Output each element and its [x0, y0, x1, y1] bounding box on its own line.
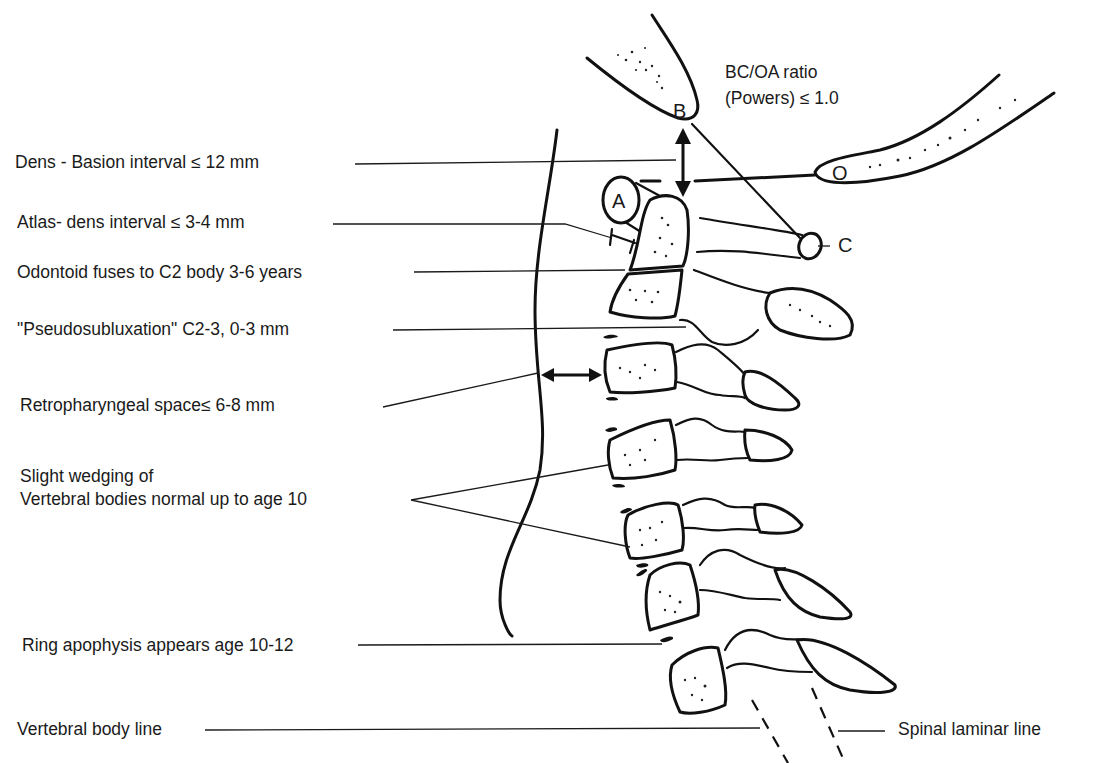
c1-posterior-arch: C — [697, 218, 852, 262]
atlas-letter: A — [612, 190, 626, 212]
odontoid-fuses-leader — [414, 270, 625, 272]
retropharyngeal-leader — [383, 373, 538, 407]
bc-oa-ratio-label-line1: BC/OA ratio — [725, 62, 817, 82]
atlas-dens-label: Atlas- dens interval ≤ 3-4 mm — [17, 212, 244, 232]
wedging-label-line1: Slight wedging of — [20, 466, 153, 486]
vertebral-body-line-leader — [205, 728, 760, 730]
oa-line — [641, 175, 815, 181]
basion-letter: B — [673, 100, 686, 122]
pseudosubluxation-leader — [393, 327, 686, 330]
atlas-dens-leader — [333, 224, 612, 238]
posterior-arch-letter: C — [838, 234, 852, 256]
spinal-laminar-dashed-line — [812, 688, 845, 763]
ring-apophysis-label: Ring apophysis appears age 10-12 — [22, 635, 293, 655]
c3-vertebra — [603, 335, 799, 410]
dens-basion-leader — [355, 160, 676, 164]
dens-basion-arrow — [675, 128, 691, 197]
cervical-spine-diagram: B O BC/OA ratio (Powers) ≤ 1.0 A — [0, 0, 1109, 763]
atlas-anterior-arch: A — [603, 177, 639, 223]
c2-spinous-process — [680, 270, 852, 345]
atlas-dens-interval-marker — [610, 229, 635, 253]
odontoid-fuses-label: Odontoid fuses to C2 body 3-6 years — [17, 262, 302, 282]
c7-vertebra — [670, 630, 895, 713]
c4-vertebra — [605, 419, 792, 488]
spinal-laminar-line-label: Spinal laminar line — [898, 719, 1041, 739]
vertebral-body-line-label: Vertebral body line — [17, 719, 162, 739]
wedging-leaders — [411, 465, 630, 547]
retropharyngeal-label: Retropharyngeal space≤ 6-8 mm — [20, 395, 275, 415]
prevertebral-soft-tissue-line — [500, 130, 557, 636]
pseudosubluxation-label: "Pseudosubluxation" C2-3, 0-3 mm — [17, 319, 289, 339]
c6-vertebra — [636, 550, 851, 642]
bc-oa-ratio-label-line2: (Powers) ≤ 1.0 — [725, 88, 839, 108]
vertebral-body-dashed-line — [752, 700, 788, 763]
ring-apophysis-leader — [358, 644, 662, 645]
opisthion-letter: O — [832, 162, 848, 184]
c5-vertebra — [620, 499, 802, 568]
occiput-opisthion: O — [815, 75, 1054, 184]
wedging-label-line2: Vertebral bodies normal up to age 10 — [20, 489, 307, 509]
clivus-basion: B — [587, 15, 698, 122]
retropharyngeal-arrow — [541, 368, 602, 382]
dens-basion-label: Dens - Basion interval ≤ 12 mm — [15, 152, 259, 172]
